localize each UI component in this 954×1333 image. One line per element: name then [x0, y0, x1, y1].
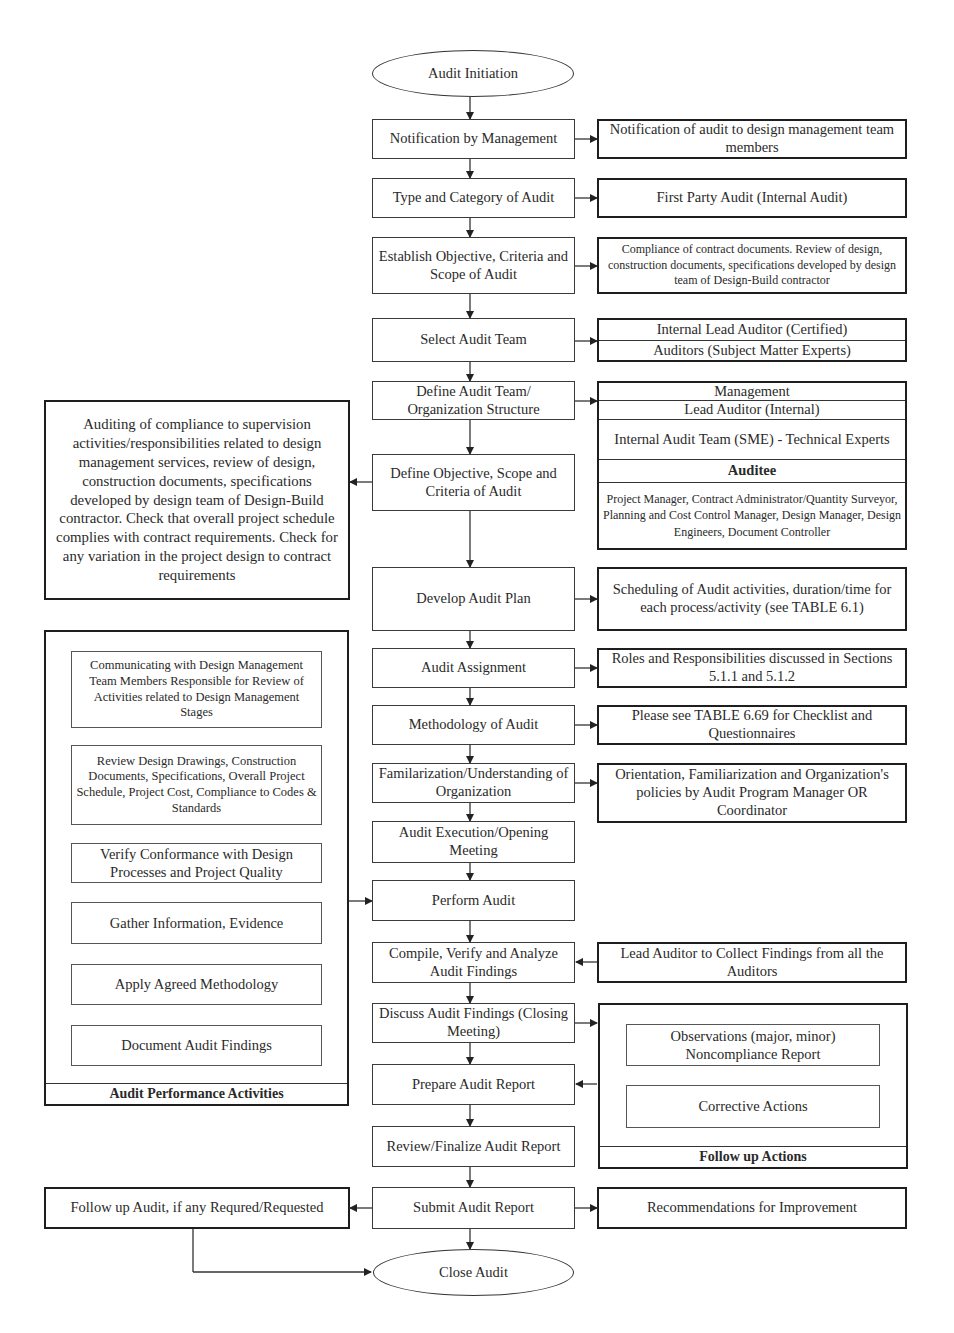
org-internal-team: Internal Audit Team (SME) - Technical Ex… [599, 420, 905, 460]
step-prepare-report: Prepare Audit Report [372, 1064, 575, 1105]
step-review-report: Review/Finalize Audit Report [372, 1126, 575, 1167]
note-recommendations: Recommendations for Improvement [597, 1187, 907, 1229]
activity-apply-methodology: Apply Agreed Methodology [71, 964, 322, 1005]
note-audit-team: Internal Lead Auditor (Certified) Audito… [597, 318, 907, 362]
followup-observations: Observations (major, minor) Noncomplianc… [626, 1024, 880, 1066]
end-terminal: Close Audit [373, 1249, 574, 1296]
step-assignment: Audit Assignment [372, 648, 575, 688]
step-discuss: Discuss Audit Findings (Closing Meeting) [372, 1003, 575, 1043]
note-assignment: Roles and Responsibilities discussed in … [597, 648, 907, 688]
step-develop-plan: Develop Audit Plan [372, 567, 575, 631]
step-define-objective: Define Objective, Scope and Criteria of … [372, 454, 575, 511]
team-lead-auditor: Internal Lead Auditor (Certified) [599, 320, 905, 341]
step-execution: Audit Execution/Opening Meeting [372, 821, 575, 863]
note-familiarization: Orientation, Familiarization and Organiz… [597, 763, 907, 823]
step-methodology: Methodology of Audit [372, 705, 575, 745]
org-management: Management [599, 383, 905, 401]
step-compile: Compile, Verify and Analyze Audit Findin… [372, 942, 575, 983]
org-auditee-members: Project Manager, Contract Administrator/… [599, 483, 905, 548]
note-compliance-scope: Compliance of contract documents. Review… [597, 237, 907, 294]
note-followup-audit: Follow up Audit, if any Requred/Requeste… [44, 1187, 350, 1229]
note-collect-findings: Lead Auditor to Collect Findings from al… [597, 942, 907, 983]
step-type-category: Type and Category of Audit [372, 178, 575, 218]
org-auditee-heading: Auditee [599, 460, 905, 483]
start-terminal: Audit Initiation [372, 50, 574, 97]
activity-gather-information: Gather Information, Evidence [71, 902, 322, 944]
step-perform: Perform Audit [372, 880, 575, 921]
team-auditors: Auditors (Subject Matter Experts) [599, 341, 905, 361]
note-audit-plan: Scheduling of Audit activities, duration… [597, 567, 907, 631]
audit-performance-panel: Communicating with Design Management Tea… [44, 630, 349, 1106]
activity-verify-conformance: Verify Conformance with Design Processes… [71, 843, 322, 883]
activity-document-findings: Document Audit Findings [71, 1025, 322, 1066]
step-submit-report: Submit Audit Report [372, 1187, 575, 1229]
step-define-team: Define Audit Team/ Organization Structur… [372, 381, 575, 420]
step-familiarization: Familarization/Understanding of Organiza… [372, 763, 575, 803]
step-establish-objective: Establish Objective, Criteria and Scope … [372, 237, 575, 294]
org-lead-auditor: Lead Auditor (Internal) [599, 401, 905, 420]
step-select-team: Select Audit Team [372, 318, 575, 362]
note-methodology: Please see TABLE 6.69 for Checklist and … [597, 705, 907, 745]
note-notification: Notification of audit to design manageme… [597, 119, 907, 159]
step-notification: Notification by Management [372, 119, 575, 159]
note-objective-detail: Auditing of compliance to supervision ac… [44, 400, 350, 600]
activity-communicating: Communicating with Design Management Tea… [71, 651, 322, 728]
activity-review-drawings: Review Design Drawings, Construction Doc… [71, 745, 322, 825]
followup-actions-panel: Observations (major, minor) Noncomplianc… [598, 1003, 908, 1169]
followup-actions-title: Follow up Actions [600, 1146, 906, 1167]
note-org-structure: Management Lead Auditor (Internal) Inter… [597, 381, 907, 550]
audit-performance-title: Audit Performance Activities [46, 1083, 347, 1104]
followup-corrective-actions: Corrective Actions [626, 1085, 880, 1128]
note-audit-type: First Party Audit (Internal Audit) [597, 178, 907, 218]
